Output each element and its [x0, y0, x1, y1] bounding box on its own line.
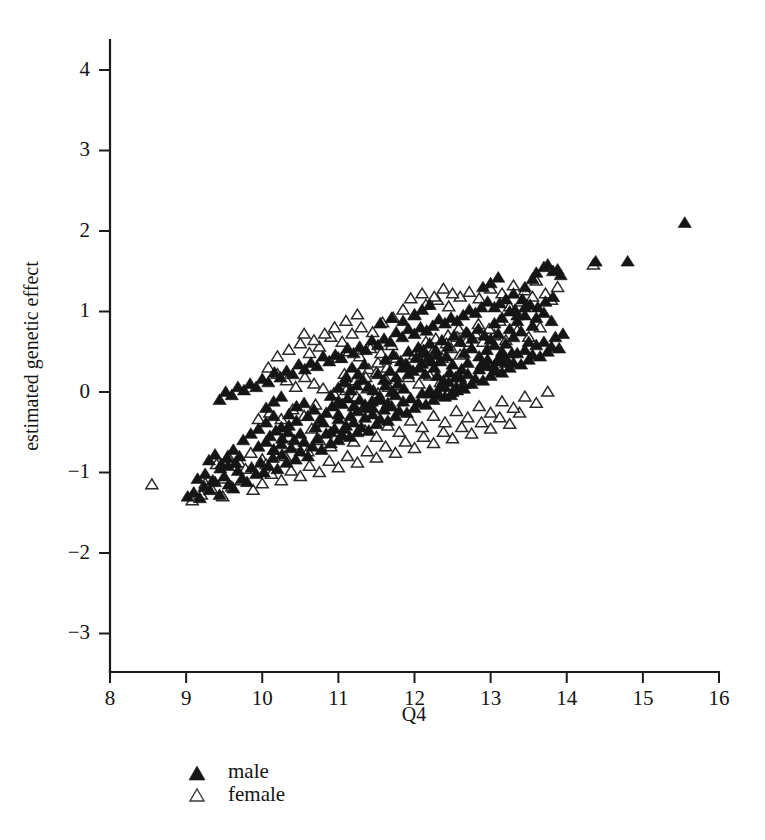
x-tick-label: 14 [556, 686, 578, 710]
data-point-female [393, 427, 405, 437]
legend-label-female: female [228, 782, 285, 806]
legend-marker-female-triangle-icon [190, 789, 204, 801]
caption-ghost-strip [0, 830, 765, 840]
y-tick-label: −1 [68, 459, 90, 483]
data-point-female [473, 401, 485, 411]
data-point-female [340, 316, 352, 326]
data-point-female [416, 288, 428, 298]
data-point-female [256, 478, 268, 488]
y-tick-label: −3 [68, 620, 90, 644]
x-tick-label: 10 [252, 686, 273, 710]
data-point-male [298, 397, 311, 408]
y-tick-label: 4 [80, 57, 91, 81]
data-point-female [450, 406, 462, 416]
data-point-female [283, 345, 295, 355]
data-point-female [437, 283, 449, 293]
data-point-female [323, 456, 335, 466]
data-point-male [317, 350, 330, 361]
data-series-female [146, 259, 600, 505]
y-tick-label: 3 [80, 137, 91, 161]
data-point-female [530, 398, 542, 408]
y-tick-label: −2 [68, 540, 90, 564]
x-axis-title: Q4 [402, 703, 426, 725]
data-point-female [437, 427, 449, 437]
data-point-female [496, 396, 508, 406]
data-point-female [456, 422, 468, 432]
y-axis-ticks: 43210−1−2−3 [68, 57, 110, 645]
data-point-female [443, 301, 455, 311]
x-tick-label: 11 [328, 686, 348, 710]
data-series-male [181, 217, 691, 503]
data-point-female [399, 436, 411, 446]
data-point-male [292, 358, 305, 369]
data-point-male [275, 391, 288, 402]
data-point-female [397, 304, 409, 314]
x-tick-label: 9 [181, 686, 192, 710]
data-point-female [475, 417, 487, 427]
data-point-male [556, 328, 569, 339]
data-point-female [329, 322, 341, 332]
data-point-female [342, 451, 354, 461]
y-tick-label: 2 [80, 218, 91, 242]
data-point-female [462, 412, 474, 422]
y-tick-label: 0 [80, 379, 91, 403]
legend-label-male: male [228, 759, 269, 783]
data-point-male [208, 449, 221, 460]
data-point-female [361, 446, 373, 456]
data-point-male [199, 468, 212, 479]
data-point-male [537, 336, 550, 347]
data-point-male [621, 255, 634, 266]
data-point-male [390, 326, 403, 337]
data-point-female [552, 282, 564, 292]
legend-marker-male-triangle-icon [189, 766, 205, 780]
data-point-female [439, 417, 451, 427]
x-tick-label: 13 [480, 686, 501, 710]
data-point-female [542, 386, 554, 396]
x-tick-label: 8 [105, 686, 116, 710]
data-point-female [507, 402, 519, 412]
data-point-female [271, 351, 283, 361]
data-point-female [405, 293, 417, 303]
scatter-plot-figure: 43210−1−2−3 8910111213141516 Q4 estimate… [0, 0, 765, 840]
data-point-male [678, 217, 691, 228]
data-point-female [416, 422, 428, 432]
data-point-female [303, 460, 315, 470]
data-point-female [485, 407, 497, 417]
data-point-female [463, 287, 475, 297]
data-point-male [589, 255, 602, 266]
data-point-male [404, 392, 417, 403]
data-point-male [492, 271, 505, 282]
plot-canvas: 43210−1−2−3 8910111213141516 Q4 estimate… [0, 0, 765, 840]
data-point-female [418, 431, 430, 441]
y-tick-label: 1 [80, 298, 91, 322]
data-point-female [351, 309, 363, 319]
data-point-female [298, 328, 310, 338]
data-point-female [519, 391, 531, 401]
data-point-female [355, 322, 367, 332]
x-tick-label: 15 [632, 686, 653, 710]
y-axis-title: estimated genetic effect [20, 261, 43, 451]
x-tick-label: 16 [709, 686, 730, 710]
data-point-female [146, 479, 158, 489]
data-point-female [294, 338, 306, 348]
data-point-female [428, 411, 440, 421]
legend: male female [189, 759, 285, 806]
data-point-female [380, 441, 392, 451]
